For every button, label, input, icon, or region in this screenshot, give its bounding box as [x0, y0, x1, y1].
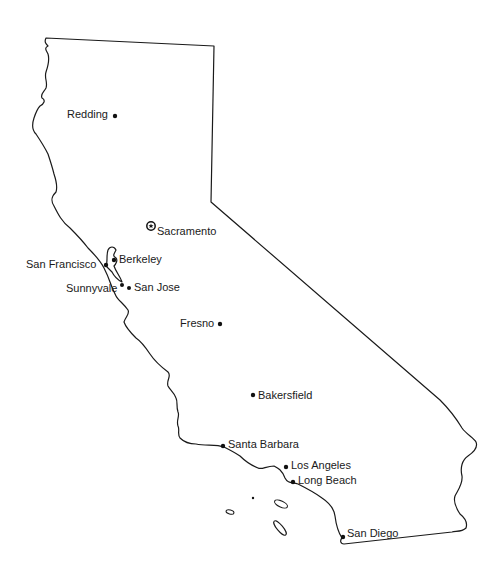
city-dot-long-beach: [291, 480, 295, 484]
label-sunnyvale: Sunnyvale: [66, 282, 117, 295]
label-san-jose: San Jose: [134, 281, 180, 294]
city-dot-san-jose: [127, 286, 131, 290]
label-redding: Redding: [67, 108, 108, 121]
city-dot-san-francisco: [104, 263, 108, 267]
label-sacramento: Sacramento: [157, 225, 216, 238]
city-dot-santa-barbara: [221, 444, 225, 448]
capital-star-icon: [147, 222, 155, 230]
city-dot-redding: [113, 114, 117, 118]
city-dot-sunnyvale: [120, 283, 124, 287]
city-dot-bakersfield: [251, 393, 255, 397]
city-dot-los-angeles: [284, 465, 288, 469]
label-fresno: Fresno: [180, 317, 214, 330]
island-san-clemente: [272, 519, 288, 537]
label-san-diego: San Diego: [347, 527, 398, 540]
label-santa-barbara: Santa Barbara: [228, 438, 299, 451]
city-dot-berkeley: [112, 258, 116, 262]
island-san-nicolas: [226, 509, 235, 515]
island-santa-catalina: [273, 498, 288, 509]
island-santa-barbara: [252, 497, 254, 499]
label-los-angeles: Los Angeles: [291, 459, 351, 472]
city-dot-fresno: [218, 322, 222, 326]
label-san-francisco: San Francisco: [26, 258, 96, 271]
label-bakersfield: Bakersfield: [258, 389, 312, 402]
label-berkeley: Berkeley: [119, 253, 162, 266]
label-long-beach: Long Beach: [298, 474, 357, 487]
city-dot-san-diego: [341, 535, 345, 539]
